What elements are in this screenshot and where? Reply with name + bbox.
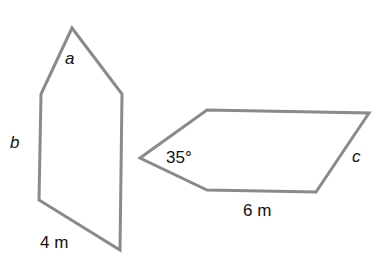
diagram-canvas: a b 4 m 35° c 6 m — [0, 0, 383, 259]
shapes-svg — [0, 0, 383, 259]
angle-label-a: a — [65, 50, 74, 67]
side-label-b: b — [10, 134, 19, 151]
side-label-c: c — [352, 148, 361, 165]
angle-label-35: 35° — [166, 149, 192, 166]
base-label-4m: 4 m — [40, 234, 68, 251]
base-label-6m: 6 m — [243, 202, 271, 219]
left-pentagon — [39, 28, 122, 250]
